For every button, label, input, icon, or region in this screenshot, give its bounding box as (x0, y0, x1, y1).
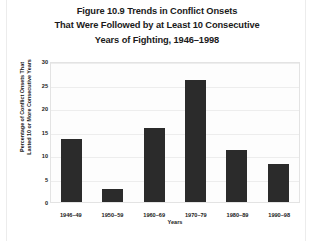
bar-slot (92, 63, 133, 202)
bar-slot (258, 63, 299, 202)
x-tick-label: 1960–69 (143, 212, 165, 218)
y-tick-label-25: 25 (28, 83, 48, 89)
y-tick-label-10: 10 (28, 153, 48, 159)
y-tick-label-0: 0 (28, 200, 48, 206)
plot-wrapper: 051015202530 1946–491950–591960–691970–7… (50, 62, 300, 203)
y-tick-label-15: 15 (28, 130, 48, 136)
figure-title-line-3: Years of Fighting, 1946–1998 (14, 33, 300, 47)
x-tick-label: 1970–79 (185, 212, 207, 218)
x-tick-label: 1980–89 (227, 212, 249, 218)
figure-title-line-1: Figure 10.9 Trends in Conflict Onsets (14, 4, 300, 18)
figure-page: Figure 10.9 Trends in Conflict Onsets Th… (0, 0, 322, 241)
bar-slot (134, 63, 175, 202)
bar (102, 189, 123, 202)
figure-title: Figure 10.9 Trends in Conflict Onsets Th… (14, 4, 300, 47)
y-tick-label-20: 20 (28, 106, 48, 112)
plot-area (50, 62, 300, 203)
x-tick-label: 1946–49 (60, 212, 82, 218)
page-margin-rule-left (6, 0, 7, 241)
y-axis-title-line-1: Percentage of Conflict Onsets That (19, 37, 26, 177)
x-axis-title: Years (50, 219, 300, 225)
bar (185, 80, 206, 202)
bar (144, 128, 165, 202)
bar-slot (175, 63, 216, 202)
bar-slot (216, 63, 257, 202)
y-tick-label-5: 5 (28, 177, 48, 183)
x-tick-label: 1950–59 (102, 212, 124, 218)
bar (268, 164, 289, 202)
y-tick-label-30: 30 (28, 59, 48, 65)
bar (226, 150, 247, 202)
bar-series (51, 63, 299, 202)
x-tick-label: 1990–98 (268, 212, 290, 218)
bar-chart: Percentage of Conflict Onsets That Laste… (8, 56, 302, 238)
bar (61, 139, 82, 202)
page-margin-rule-right (305, 0, 306, 241)
figure-title-line-2: That Were Followed by at Least 10 Consec… (14, 18, 300, 32)
bar-slot (51, 63, 92, 202)
